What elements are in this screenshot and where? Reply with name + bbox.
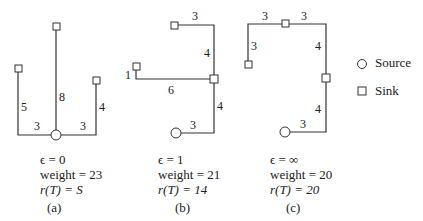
weight-value: weight = 20 bbox=[270, 167, 332, 182]
panel-a-label: (a) bbox=[47, 200, 61, 216]
edge-weight: 6 bbox=[168, 83, 174, 97]
panel-c-caption: ϵ = ∞ weight = 20 r(T) = 20 bbox=[270, 152, 332, 197]
panel-a-caption: ϵ = 0 weight = 23 r(T) = S bbox=[40, 152, 102, 197]
edge-weight: 3 bbox=[301, 9, 307, 23]
edge-weight: 4 bbox=[204, 46, 210, 60]
edge-weight: 4 bbox=[217, 99, 223, 113]
panel-a-tree: 5 3 8 3 4 bbox=[15, 23, 105, 140]
epsilon-value: ϵ = 1 bbox=[158, 152, 220, 167]
edge-weight: 8 bbox=[59, 90, 65, 104]
panel-b-tree: 3 4 1 6 4 3 bbox=[125, 9, 223, 138]
sink-icon bbox=[171, 22, 178, 29]
source-icon bbox=[358, 60, 367, 69]
panel-c-label: (c) bbox=[286, 200, 300, 216]
edge-weight: 3 bbox=[251, 39, 257, 53]
legend bbox=[358, 60, 367, 96]
source-icon bbox=[171, 128, 181, 138]
radius-value: r(T) = 14 bbox=[158, 182, 220, 197]
edge-weight: 3 bbox=[80, 119, 86, 133]
edge-weight: 5 bbox=[21, 100, 27, 114]
sink-icon bbox=[53, 23, 60, 30]
edge-weight: 3 bbox=[34, 119, 40, 133]
edge-weight: 4 bbox=[99, 100, 105, 114]
sink-icon bbox=[15, 65, 22, 72]
radius-value: r(T) = 20 bbox=[270, 182, 332, 197]
edge bbox=[181, 82, 214, 133]
epsilon-value: ϵ = ∞ bbox=[270, 152, 332, 167]
radius-value: r(T) = S bbox=[40, 182, 102, 197]
sink-icon bbox=[245, 61, 252, 68]
source-icon bbox=[51, 130, 61, 140]
edge bbox=[136, 69, 211, 79]
sink-icon bbox=[133, 63, 140, 70]
panel-b-label: (b) bbox=[175, 200, 190, 216]
sink-icon bbox=[358, 87, 366, 95]
edge-weight: 4 bbox=[315, 39, 321, 53]
legend-source-label: Source bbox=[375, 55, 411, 71]
panel-c-tree: 3 3 3 4 4 3 bbox=[245, 9, 330, 137]
panel-b-caption: ϵ = 1 weight = 21 r(T) = 14 bbox=[158, 152, 220, 197]
sink-icon bbox=[282, 20, 289, 27]
edge-weight: 3 bbox=[262, 9, 268, 23]
sink-icon bbox=[322, 74, 330, 82]
edge-weight: 3 bbox=[192, 9, 198, 23]
legend-sink-label: Sink bbox=[375, 83, 399, 99]
sink-icon bbox=[93, 77, 100, 84]
edge-weight: 1 bbox=[125, 68, 131, 82]
weight-value: weight = 21 bbox=[158, 167, 220, 182]
source-icon bbox=[280, 127, 290, 137]
epsilon-value: ϵ = 0 bbox=[40, 152, 102, 167]
edge-weight: 4 bbox=[315, 102, 321, 116]
weight-value: weight = 23 bbox=[40, 167, 102, 182]
sink-icon bbox=[210, 75, 218, 83]
edge-weight: 3 bbox=[300, 117, 306, 131]
edge-weight: 3 bbox=[190, 118, 196, 132]
